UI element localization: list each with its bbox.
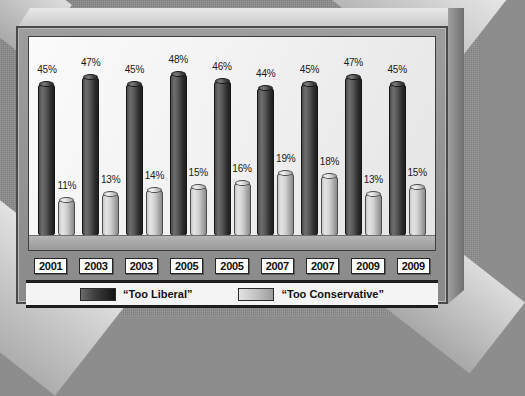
bar-groups: 45%11%47%13%45%14%48%15%46%16%44%19%45%1… [29, 37, 435, 237]
bar-too-conservative[interactable]: 13% [365, 37, 382, 237]
year-label: 2005 [170, 258, 203, 274]
bar-too-liberal[interactable]: 46% [214, 37, 231, 237]
bar-cylinder [82, 76, 99, 237]
bar-too-conservative[interactable]: 19% [277, 37, 294, 237]
chart-panel: 45%11%47%13%45%14%48%15%46%16%44%19%45%1… [16, 8, 464, 304]
bar-too-conservative[interactable]: 15% [190, 37, 207, 237]
bar-cylinder [190, 186, 207, 237]
bar-too-liberal[interactable]: 47% [82, 37, 99, 237]
bar-too-conservative[interactable]: 14% [146, 37, 163, 237]
bar-value-label: 46% [212, 61, 231, 72]
bar-cylinder [102, 193, 119, 237]
bar-value-label: 16% [232, 163, 251, 174]
bar-group: 45%18% [298, 37, 342, 237]
legend-swatch-light [238, 288, 274, 301]
bar-cylinder [234, 182, 251, 237]
bar-cylinder [345, 76, 362, 237]
plot-area: 45%11%47%13%45%14%48%15%46%16%44%19%45%1… [28, 36, 436, 251]
bar-cylinder [170, 73, 187, 237]
legend-label: “Too Conservative” [281, 288, 384, 300]
bar-cylinder [257, 87, 274, 237]
x-axis-tick: 2005 [209, 256, 254, 276]
bar-too-liberal[interactable]: 48% [170, 37, 187, 237]
x-axis-tick: 2003 [119, 256, 164, 276]
plot-floor [29, 235, 435, 250]
bar-value-label: 45% [37, 64, 56, 75]
bar-cylinder [214, 80, 231, 237]
year-label: 2009 [351, 258, 384, 274]
legend-swatch-dark [80, 288, 116, 301]
bar-value-label: 11% [58, 180, 77, 191]
chart-frame: 45%11%47%13%45%14%48%15%46%16%44%19%45%1… [16, 26, 448, 304]
bar-value-label: 19% [276, 153, 295, 164]
year-label: 2001 [34, 258, 67, 274]
bar-value-label: 15% [407, 167, 426, 178]
chart-legend: “Too Liberal”“Too Conservative” [26, 280, 438, 308]
legend-label: “Too Liberal” [123, 288, 192, 300]
x-axis-tick: 2001 [28, 256, 73, 276]
bar-value-label: 44% [256, 68, 275, 79]
bar-cylinder [301, 83, 318, 237]
bar-cylinder [126, 83, 143, 237]
bar-value-label: 45% [387, 64, 406, 75]
x-axis-tick: 2005 [164, 256, 209, 276]
x-axis-labels: 200120032003200520052007200720092009 [28, 256, 436, 276]
bar-cylinder [365, 193, 382, 237]
x-axis-tick: 2007 [300, 256, 345, 276]
bar-cylinder [321, 175, 338, 237]
bar-too-liberal[interactable]: 45% [301, 37, 318, 237]
bar-group: 48%15% [166, 37, 210, 237]
bar-group: 45%15% [385, 37, 429, 237]
bar-cylinder [38, 83, 55, 237]
bar-too-conservative[interactable]: 18% [321, 37, 338, 237]
bar-cylinder [409, 186, 426, 237]
x-axis-tick: 2009 [345, 256, 390, 276]
year-label: 2009 [397, 258, 430, 274]
bar-value-label: 14% [145, 170, 164, 181]
bar-cylinder [277, 172, 294, 237]
bar-group: 46%16% [210, 37, 254, 237]
bar-value-label: 45% [300, 64, 319, 75]
bar-group: 45%14% [123, 37, 167, 237]
x-axis-tick: 2007 [255, 256, 300, 276]
year-label: 2007 [261, 258, 294, 274]
bar-value-label: 48% [169, 54, 188, 65]
year-label: 2003 [79, 258, 112, 274]
bar-too-conservative[interactable]: 11% [58, 37, 75, 237]
bar-value-label: 13% [101, 174, 120, 185]
bar-value-label: 15% [189, 167, 208, 178]
bar-too-liberal[interactable]: 45% [389, 37, 406, 237]
bar-cylinder [389, 83, 406, 237]
year-label: 2003 [125, 258, 158, 274]
bar-cylinder [146, 189, 163, 237]
bar-group: 47%13% [79, 37, 123, 237]
bar-value-label: 13% [364, 174, 383, 185]
panel-bevel-right [448, 8, 464, 304]
bar-value-label: 45% [125, 64, 144, 75]
bar-group: 45%11% [35, 37, 79, 237]
bar-value-label: 18% [320, 156, 339, 167]
bar-group: 47%13% [341, 37, 385, 237]
legend-item[interactable]: “Too Liberal” [80, 288, 192, 301]
bar-too-conservative[interactable]: 13% [102, 37, 119, 237]
bar-too-liberal[interactable]: 44% [257, 37, 274, 237]
bar-too-liberal[interactable]: 45% [38, 37, 55, 237]
x-axis-tick: 2009 [391, 256, 436, 276]
legend-item[interactable]: “Too Conservative” [238, 288, 384, 301]
year-label: 2005 [215, 258, 248, 274]
bar-cylinder [58, 199, 75, 237]
bar-too-liberal[interactable]: 45% [126, 37, 143, 237]
year-label: 2007 [306, 258, 339, 274]
bar-value-label: 47% [344, 57, 363, 68]
bar-value-label: 47% [81, 57, 100, 68]
bar-group: 44%19% [254, 37, 298, 237]
bar-too-conservative[interactable]: 16% [234, 37, 251, 237]
bar-too-conservative[interactable]: 15% [409, 37, 426, 237]
bar-too-liberal[interactable]: 47% [345, 37, 362, 237]
x-axis-tick: 2003 [73, 256, 118, 276]
